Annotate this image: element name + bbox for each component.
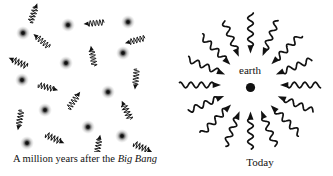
photon-squiggle	[132, 141, 153, 152]
atom-dot	[59, 56, 73, 70]
early-universe-panel: A million years after the Big Bang	[0, 0, 170, 176]
photon-arrow	[221, 20, 241, 58]
right-caption: Today	[220, 156, 300, 168]
photon-arrow	[277, 94, 315, 114]
left-caption-italic: Big Bang	[118, 153, 157, 164]
atom-dot	[116, 46, 130, 60]
left-caption-text: A million years after the	[13, 153, 118, 164]
atom-dot	[115, 129, 129, 143]
early-universe-diagram	[0, 0, 170, 152]
photon-squiggle	[7, 55, 28, 69]
photon-arrow	[200, 102, 234, 136]
atom-dot	[20, 136, 34, 150]
today-panel: earth Today	[170, 0, 333, 176]
atom-dot	[16, 26, 30, 40]
photon-squiggle	[132, 69, 140, 90]
photon-squiggle	[88, 45, 97, 66]
photon-arrow	[258, 109, 278, 147]
left-caption: A million years after the Big Bang	[0, 153, 170, 165]
cmb-two-panel-figure: A million years after the Big Bang earth…	[0, 0, 333, 176]
photon-arrow	[269, 33, 303, 67]
earth-dot	[246, 83, 255, 92]
photon-squiggle	[124, 35, 145, 46]
atom-dot	[121, 15, 135, 29]
photon-squiggle	[66, 90, 83, 110]
earth-label: earth	[209, 64, 291, 76]
photon-squiggle	[119, 99, 133, 120]
atom-dot	[15, 73, 29, 87]
atom-dot	[101, 85, 115, 99]
photon-arrow	[248, 13, 254, 54]
photon-arrow	[180, 82, 222, 88]
photon-arrow	[187, 93, 225, 113]
photon-squiggle	[27, 2, 40, 23]
photon-squiggle	[44, 132, 65, 146]
photon-arrow	[222, 110, 242, 147]
today-diagram	[170, 0, 333, 152]
atom-dot	[61, 18, 75, 32]
photon-arrow	[199, 33, 233, 67]
photon-squiggle	[31, 32, 51, 50]
photon-squiggle	[15, 110, 24, 131]
atom-dot	[38, 103, 52, 117]
photon-squiggle	[83, 19, 104, 27]
atom-dot	[81, 120, 95, 134]
photon-arrow	[260, 19, 280, 57]
photon-arrow	[280, 82, 321, 88]
photon-arrow	[248, 112, 254, 150]
photon-squiggle	[37, 82, 58, 93]
photon-squiggle	[94, 134, 103, 152]
